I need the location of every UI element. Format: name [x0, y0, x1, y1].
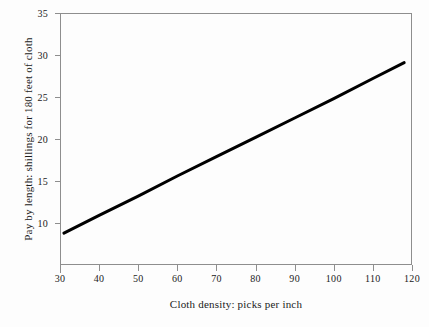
y-tick-label: 35 — [37, 8, 48, 19]
x-tick — [216, 265, 217, 271]
x-tick-label: 40 — [94, 273, 105, 284]
y-tick-label: 15 — [37, 176, 48, 187]
x-tick-label: 50 — [133, 273, 144, 284]
x-tick — [412, 265, 413, 271]
x-tick-label: 110 — [365, 273, 381, 284]
x-tick — [99, 265, 100, 271]
y-tick — [55, 55, 61, 56]
x-tick — [295, 265, 296, 271]
x-tick — [138, 265, 139, 271]
x-tick — [60, 265, 61, 271]
x-tick-label: 120 — [404, 273, 420, 284]
y-tick — [55, 181, 61, 182]
y-axis-title: Pay by length: shillings for 180 feet of… — [22, 13, 38, 265]
y-tick — [55, 223, 61, 224]
y-tick-label: 20 — [37, 134, 48, 145]
y-tick-label: 30 — [37, 50, 48, 61]
x-tick-label: 70 — [211, 273, 222, 284]
x-tick-label: 80 — [250, 273, 261, 284]
plot-area — [60, 13, 412, 265]
x-tick — [177, 265, 178, 271]
y-tick-label: 10 — [37, 218, 48, 229]
x-tick — [256, 265, 257, 271]
y-tick-label: 25 — [37, 92, 48, 103]
x-tick-label: 30 — [55, 273, 66, 284]
x-tick-label: 90 — [289, 273, 300, 284]
x-axis-title: Cloth density: picks per inch — [60, 298, 412, 310]
y-tick — [55, 97, 61, 98]
x-tick — [334, 265, 335, 271]
x-tick — [373, 265, 374, 271]
x-tick-label: 60 — [172, 273, 183, 284]
y-tick — [55, 13, 61, 14]
chart-figure: 30405060708090100110120 101520253035 Clo… — [0, 0, 429, 327]
x-tick-label: 100 — [326, 273, 342, 284]
y-tick — [55, 139, 61, 140]
